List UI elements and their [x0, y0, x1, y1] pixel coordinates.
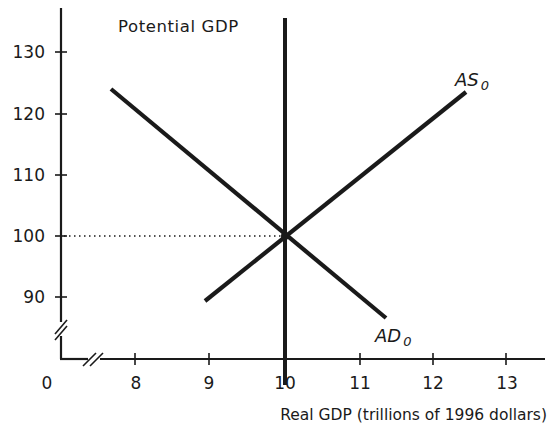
x-tick-label: 8 — [131, 373, 142, 393]
as-label: AS0 — [454, 69, 489, 93]
x-tick-label: 11 — [349, 373, 371, 393]
equilibrium-point — [281, 232, 289, 240]
y-tick-label: 90 — [23, 287, 45, 307]
x-axis-title: Real GDP (trillions of 1996 dollars) — [280, 406, 547, 424]
x-tick-labels: 0 8 9 10 11 12 13 — [42, 373, 518, 393]
x-tick-label: 9 — [204, 373, 215, 393]
y-tick-label: 130 — [13, 42, 45, 62]
as-curve — [205, 92, 466, 301]
y-tick-labels: 130 120 110 100 90 — [13, 42, 45, 307]
origin-label: 0 — [42, 373, 53, 393]
y-tick-label: 120 — [13, 104, 45, 124]
x-tick-label: 12 — [422, 373, 444, 393]
y-tick-label: 110 — [13, 165, 45, 185]
ad-as-chart: 130 120 110 100 90 0 8 9 10 11 12 13 Rea… — [0, 0, 560, 441]
y-tick-label: 100 — [13, 226, 45, 246]
ad-label: AD0 — [374, 325, 411, 349]
potential-gdp-label: Potential GDP — [118, 17, 239, 36]
ad-curve — [111, 89, 386, 318]
x-tick-label: 13 — [496, 373, 518, 393]
